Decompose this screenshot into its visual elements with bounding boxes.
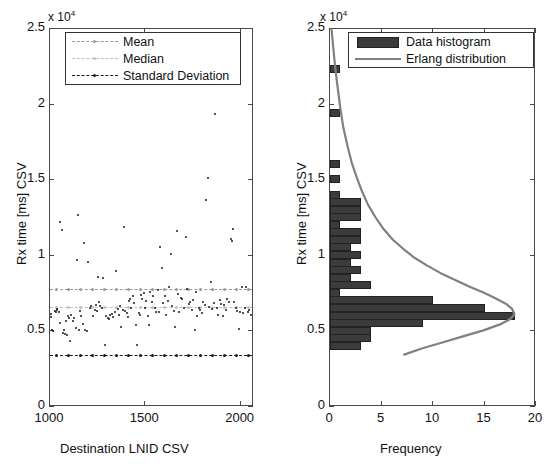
scatter-point — [170, 253, 172, 255]
scatter-point — [238, 328, 240, 330]
y-tick-mark-right — [248, 179, 253, 180]
legend-item: Standard Deviation — [66, 67, 240, 84]
scatter-point — [95, 304, 97, 306]
legend-line — [355, 58, 401, 60]
x-tick-mark — [49, 401, 50, 406]
scatter-point — [210, 281, 212, 283]
x-tick-label: 1500 — [114, 410, 174, 425]
reference-line-marker — [163, 306, 166, 309]
scatter-point — [219, 299, 221, 301]
histogram-legend: Data histogramErlang distribution — [348, 32, 534, 68]
y-tick-label: 0.5 — [1, 321, 45, 336]
scatter-point — [195, 291, 197, 293]
scatter-point — [127, 316, 129, 318]
scatter-point — [128, 300, 130, 302]
scatter-point — [167, 300, 169, 302]
scatter-point — [183, 307, 185, 309]
scatter-point — [250, 314, 252, 316]
y-tick-mark-right — [248, 406, 253, 407]
scatter-point — [228, 301, 230, 303]
legend-swatch — [72, 36, 118, 48]
reference-line-marker — [175, 306, 178, 309]
reference-line-marker — [67, 306, 70, 309]
scatter-legend: MeanMedianStandard Deviation — [65, 32, 241, 85]
scatter-point — [104, 344, 106, 346]
scatter-point — [78, 329, 80, 331]
legend-label: Mean — [123, 35, 154, 49]
y-tick-mark — [49, 406, 54, 407]
y-tick-mark-right — [248, 28, 253, 29]
legend-marker — [93, 57, 96, 60]
scatter-point — [50, 313, 52, 315]
scatter-point — [97, 276, 99, 278]
scatter-point — [96, 310, 98, 312]
scatter-point — [75, 327, 77, 329]
y-tick-mark — [49, 255, 54, 256]
scatter-point — [222, 315, 224, 317]
histogram-y-axis-label: Rx time [ms] CSV — [294, 162, 309, 265]
erlang-distribution-curve — [272, 0, 544, 464]
scatter-point — [112, 316, 114, 318]
reference-line-marker — [151, 288, 154, 291]
scatter-point — [123, 226, 125, 228]
reference-line-marker — [79, 288, 82, 291]
reference-line-marker — [235, 288, 238, 291]
y-tick-mark-right — [248, 330, 253, 331]
legend-swatch — [72, 53, 118, 65]
scatter-point — [213, 302, 215, 304]
reference-line-marker — [103, 306, 106, 309]
y-tick-mark — [49, 179, 54, 180]
scatter-point — [245, 286, 247, 288]
reference-line-marker — [55, 288, 58, 291]
x-tick-mark-top — [49, 28, 50, 33]
scatter-point — [189, 301, 191, 303]
scatter-point — [111, 313, 113, 315]
scatter-point — [136, 344, 138, 346]
legend-label: Erlang distribution — [406, 52, 506, 66]
scatter-point — [61, 229, 63, 231]
scatter-point — [168, 286, 170, 288]
scatter-point — [186, 288, 188, 290]
scatter-point — [204, 304, 206, 306]
reference-line-marker — [127, 288, 130, 291]
legend-item: Median — [66, 50, 240, 67]
legend-item: Data histogram — [349, 33, 533, 50]
legend-marker — [93, 74, 96, 77]
scatter-point — [126, 312, 128, 314]
y-tick-label: 2.5 — [1, 19, 45, 34]
reference-line-marker — [175, 288, 178, 291]
scatter-point — [114, 311, 116, 313]
scatter-point — [191, 309, 193, 311]
legend-swatch — [72, 70, 118, 82]
legend-marker — [93, 40, 96, 43]
scatter-point — [68, 317, 70, 319]
y-tick-mark-right — [248, 104, 253, 105]
reference-line-marker — [187, 306, 190, 309]
figure-root: x 104 00.511.522.5 100015002000 Rx time … — [0, 0, 544, 464]
scatter-point — [205, 199, 207, 201]
scatter-point — [207, 177, 209, 179]
reference-line-marker — [103, 288, 106, 291]
reference-line-marker — [139, 306, 142, 309]
scatter-point — [79, 310, 81, 312]
scatter-y-axis-label: Rx time [ms] CSV — [14, 162, 29, 265]
scatter-point — [239, 311, 241, 313]
scatter-point — [194, 329, 196, 331]
scatter-point — [92, 315, 94, 317]
scatter-point — [58, 311, 60, 313]
x-tick-label: 1000 — [19, 410, 79, 425]
scatter-point — [201, 312, 203, 314]
scatter-point — [231, 240, 233, 242]
scatter-point — [202, 301, 204, 303]
legend-swatch — [355, 36, 401, 48]
scatter-point — [158, 311, 160, 313]
scatter-point — [235, 307, 237, 309]
scatter-point — [151, 301, 153, 303]
scatter-point — [89, 307, 91, 309]
scatter-y-exponent: x 104 — [48, 9, 75, 24]
reference-line-marker — [247, 288, 250, 291]
x-tick-mark — [240, 401, 241, 406]
scatter-point — [139, 314, 141, 316]
scatter-point — [76, 259, 78, 261]
reference-line-marker — [91, 288, 94, 291]
